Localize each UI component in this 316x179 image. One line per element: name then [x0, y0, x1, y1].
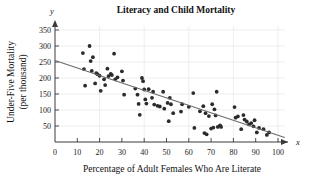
data-point: [136, 93, 140, 97]
data-point: [253, 118, 257, 122]
data-point: [103, 83, 107, 87]
y-tick-label: 150: [39, 90, 51, 99]
chart-title: Literacy and Child Mortality: [117, 5, 236, 15]
data-point: [88, 44, 92, 48]
data-point: [207, 114, 211, 118]
data-point: [179, 110, 183, 114]
data-point: [191, 91, 195, 95]
data-point: [152, 103, 156, 107]
y-tick-label: 350: [39, 26, 51, 35]
data-point: [122, 93, 126, 97]
data-point: [162, 107, 166, 111]
data-point: [167, 119, 171, 123]
data-point: [91, 55, 95, 59]
x-axis-arrow-icon: [281, 139, 288, 145]
x-axis-caption: Percentage of Adult Females Who Are Lite…: [83, 164, 261, 174]
x-tick-label: 70: [207, 148, 215, 157]
data-point: [150, 96, 154, 100]
x-tick-label: 20: [96, 148, 104, 157]
y-tick-label: 200: [39, 74, 51, 83]
y-tick-label: 100: [39, 106, 51, 115]
y-tick-label: 50: [43, 122, 51, 131]
x-tick-label: 100: [272, 148, 284, 157]
y-tick-label: 300: [39, 42, 51, 51]
data-point: [138, 113, 142, 117]
data-point: [169, 102, 173, 106]
x-tick-label: 40: [140, 148, 148, 157]
data-point: [143, 98, 147, 102]
x-tick-label: 30: [118, 148, 126, 157]
data-point: [210, 102, 214, 106]
y-tick-label: 250: [39, 58, 51, 67]
data-point: [215, 90, 219, 94]
data-point: [81, 51, 85, 55]
data-point: [192, 126, 196, 130]
x-tick-label: 80: [229, 148, 237, 157]
data-point: [99, 89, 103, 93]
data-point: [166, 101, 170, 105]
data-point: [233, 105, 237, 109]
data-point: [255, 131, 259, 135]
data-point: [249, 121, 253, 125]
data-point: [205, 132, 209, 136]
y-axis-variable-label: y: [49, 6, 54, 16]
data-point: [89, 59, 93, 63]
x-tick-label: 50: [163, 148, 171, 157]
data-point: [137, 102, 141, 106]
data-point: [106, 67, 110, 71]
x-tick-label: 10: [73, 148, 81, 157]
data-point: [112, 52, 116, 56]
data-point: [110, 73, 114, 77]
data-point: [93, 82, 97, 86]
y-axis-arrow-icon: [52, 20, 58, 27]
data-point: [219, 125, 223, 129]
x-tick-label: 0: [53, 148, 57, 157]
data-point: [121, 79, 125, 83]
chart-title-group: Literacy and Child Mortality: [117, 5, 236, 15]
data-point: [116, 75, 120, 79]
y-axis-caption-line2: (per thousand): [18, 54, 29, 109]
data-point: [242, 113, 246, 117]
data-point: [141, 79, 145, 83]
data-point: [213, 107, 217, 111]
data-point: [161, 90, 165, 94]
data-point: [102, 77, 106, 81]
data-point: [145, 102, 149, 106]
data-point: [120, 69, 124, 73]
x-tick-label: 60: [185, 148, 193, 157]
data-point: [171, 111, 175, 115]
x-tick-label: 90: [252, 148, 260, 157]
x-axis-variable-label: x: [295, 137, 300, 147]
y-axis-caption-line1: Under-Five Mortality: [6, 41, 16, 123]
scatter-plot-svg: Literacy and Child Mortality 50100150200…: [0, 0, 316, 179]
data-point: [158, 105, 162, 109]
data-point: [236, 115, 240, 119]
data-point: [239, 127, 243, 131]
data-point: [201, 104, 205, 108]
data-point: [147, 87, 151, 91]
data-point: [83, 84, 87, 88]
data-point: [211, 126, 215, 130]
chart-figure: Literacy and Child Mortality 50100150200…: [0, 0, 316, 179]
